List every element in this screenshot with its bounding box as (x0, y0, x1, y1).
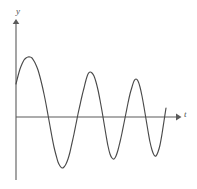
damped-sine-curve (16, 57, 166, 168)
t-axis-label: t (184, 110, 187, 119)
y-axis-arrowhead (13, 19, 20, 24)
damped-oscillation-figure: y t (0, 0, 197, 189)
plot-canvas (0, 0, 197, 189)
t-axis-arrowhead (176, 114, 182, 121)
y-axis-label: y (16, 7, 20, 16)
